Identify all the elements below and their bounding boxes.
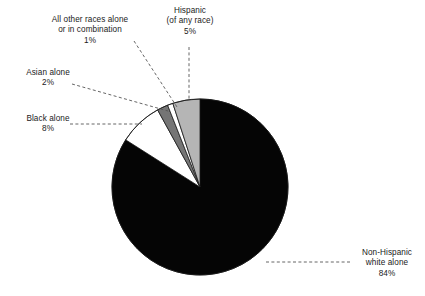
label-non-hispanic-white-alone-line2: white alone [352,258,422,268]
label-hispanic-line2: (of any race) [150,16,230,26]
label-black-alone: Black alone 8% [8,114,88,135]
label-asian-alone: Asian alone 2% [8,68,88,89]
leader-line-all-other-races [134,41,177,107]
label-non-hispanic-white-alone: Non-Hispanic white alone 84% [352,248,422,279]
label-all-other-races-line1: All other races alone [38,15,142,25]
label-black-alone-value: 8% [8,124,88,134]
label-all-other-races: All other races alone or in combination … [38,15,142,46]
label-asian-alone-line1: Asian alone [8,68,88,78]
pie-chart-figure: All other races alone or in combination … [0,0,425,296]
label-black-alone-line1: Black alone [8,114,88,124]
label-hispanic-value: 5% [150,27,230,37]
pie-slices [112,99,288,275]
label-hispanic: Hispanic (of any race) 5% [150,6,230,37]
label-all-other-races-line2: or in combination [38,25,142,35]
label-non-hispanic-white-alone-value: 84% [352,269,422,279]
label-hispanic-line1: Hispanic [150,6,230,16]
label-all-other-races-value: 1% [38,36,142,46]
label-asian-alone-value: 2% [8,78,88,88]
label-non-hispanic-white-alone-line1: Non-Hispanic [352,248,422,258]
